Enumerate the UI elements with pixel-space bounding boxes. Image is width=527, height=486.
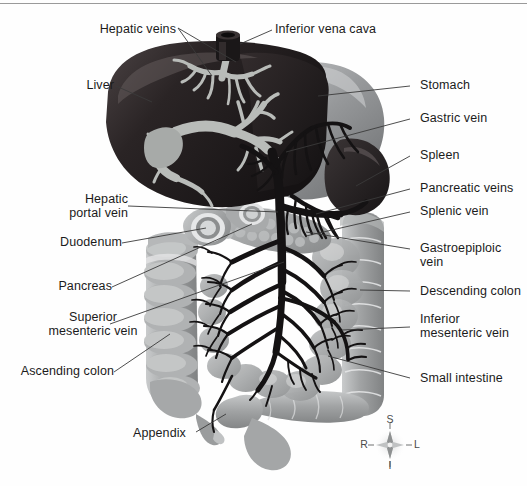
label-superior-mesenteric-vein: Superior mesenteric vein <box>14 310 172 338</box>
figure-page: Hepatic veins Inferior vena cava Liver S… <box>0 0 527 486</box>
label-spleen: Spleen <box>420 148 460 162</box>
label-stomach: Stomach <box>420 78 470 92</box>
compass-right-label: R <box>357 438 371 450</box>
label-hepatic-veins: Hepatic veins <box>100 22 176 36</box>
compass-left-label: L <box>410 438 424 450</box>
compass-superior-label: S <box>383 413 397 425</box>
label-duodenum: Duodenum <box>60 235 122 249</box>
label-liver: Liver <box>86 78 114 92</box>
label-appendix: Appendix <box>133 426 186 440</box>
inferior-vena-cava-shape <box>216 31 240 62</box>
label-splenic-vein: Splenic vein <box>420 204 489 218</box>
label-descending-colon: Descending colon <box>420 284 521 298</box>
label-pancreatic-veins: Pancreatic veins <box>420 181 513 195</box>
label-inferior-mesenteric-vein: Inferior mesenteric vein <box>420 312 509 340</box>
label-inferior-vena-cava: Inferior vena cava <box>275 22 376 36</box>
label-hepatic-portal-vein: Hepatic portal vein <box>69 192 128 220</box>
label-ascending-colon: Ascending colon <box>21 364 114 378</box>
label-gastric-vein: Gastric vein <box>420 111 487 125</box>
compass-inferior-label: I <box>383 459 397 471</box>
label-small-intestine: Small intestine <box>420 371 503 385</box>
label-pancreas: Pancreas <box>58 279 112 293</box>
label-gastroepiploic-vein: Gastroepiploic vein <box>420 241 501 269</box>
sigmoid-colon-shape <box>216 391 369 470</box>
